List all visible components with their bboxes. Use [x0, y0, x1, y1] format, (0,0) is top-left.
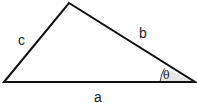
triangle-diagram: c b a θ — [0, 0, 197, 103]
angle-theta-label: θ — [163, 69, 170, 82]
side-a-label: a — [94, 89, 102, 103]
side-c-label: c — [18, 32, 25, 48]
side-b-label: b — [139, 25, 147, 41]
